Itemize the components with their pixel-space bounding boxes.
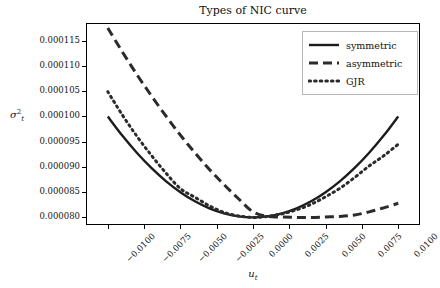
x-axis-tick-mark [180,225,181,229]
x-axis-tick-mark [108,225,109,229]
x-axis-tick-label: 0.0075 [376,231,404,259]
x-axis-tick-label: 0.0025 [303,231,331,259]
x-axis-label-subscript: t [255,274,258,282]
legend-label: asymmetric [340,58,402,69]
y-axis-tick-label: 0.000090 [22,162,80,171]
legend-line-sample-icon [308,39,340,51]
legend-line-sample-icon [308,75,340,87]
legend-line-sample-icon [308,57,340,69]
legend-item-asymmetric[interactable]: asymmetric [308,54,411,72]
x-axis-tick-label: −0.0100 [124,231,157,264]
y-axis-tick-label: 0.000095 [22,137,80,146]
x-axis-tick-label: −0.0075 [160,231,193,264]
x-axis-tick-mark [289,225,290,229]
legend-item-gjr[interactable]: GJR [308,72,411,90]
y-axis-tick-label: 0.000110 [22,61,80,70]
y-axis-label-sigma: σ [10,109,17,120]
legend-item-symmetric[interactable]: symmetric [308,36,411,54]
y-axis-tick-labels: 0.0000800.0000850.0000900.0000950.000100… [20,0,80,288]
y-axis-tick-label: 0.000085 [22,187,80,196]
curve-symmetric [108,116,398,217]
y-axis-tick-label: 0.000105 [22,86,80,95]
x-axis-label: ut [86,268,420,282]
x-axis-tick-mark [398,225,399,229]
x-axis-tick-mark [144,225,145,229]
legend-label: GJR [340,76,365,87]
legend-label: symmetric [340,40,397,51]
chart-title: Types of NIC curve [86,4,420,17]
y-axis-tick-label: 0.000115 [22,36,80,45]
y-axis-tick-label: 0.000080 [22,212,80,221]
x-axis-tick-mark [217,225,218,229]
x-axis-tick-label: −0.0025 [232,231,265,264]
x-axis-tick-label: 0.0100 [412,231,440,259]
x-axis-tick-mark [326,225,327,229]
curve-gjr [108,92,398,218]
chart-legend: symmetricasymmetricGJR [302,31,418,95]
x-axis-tick-mark [362,225,363,229]
x-axis-tick-label: 0.0050 [339,231,367,259]
x-axis-tick-mark [253,225,254,229]
x-axis-tick-label: 0.0000 [267,231,295,259]
x-axis-tick-label: −0.0050 [196,231,229,264]
y-axis-tick-label: 0.000100 [22,111,80,120]
